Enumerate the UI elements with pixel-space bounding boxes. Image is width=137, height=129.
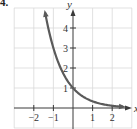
y-tick-label: 3 <box>63 43 68 54</box>
curve-arrow-top-icon <box>43 10 48 17</box>
function-curve <box>45 13 123 107</box>
x-tick-label: −1 <box>48 112 59 123</box>
axes <box>14 9 132 129</box>
x-tick-label: 1 <box>90 112 95 123</box>
graph: −2−1121234 x y <box>0 0 137 129</box>
y-axis-arrow-icon <box>71 9 76 16</box>
x-axis-label: x <box>133 102 137 114</box>
y-axis-label: y <box>66 0 72 10</box>
x-tick-label: −2 <box>28 112 39 123</box>
y-tick-label: 4 <box>63 23 68 34</box>
y-tick-label: 2 <box>63 63 68 74</box>
x-axis-arrow-icon <box>125 106 132 111</box>
x-tick-label: 2 <box>110 112 115 123</box>
y-tick-label: 1 <box>63 83 68 94</box>
